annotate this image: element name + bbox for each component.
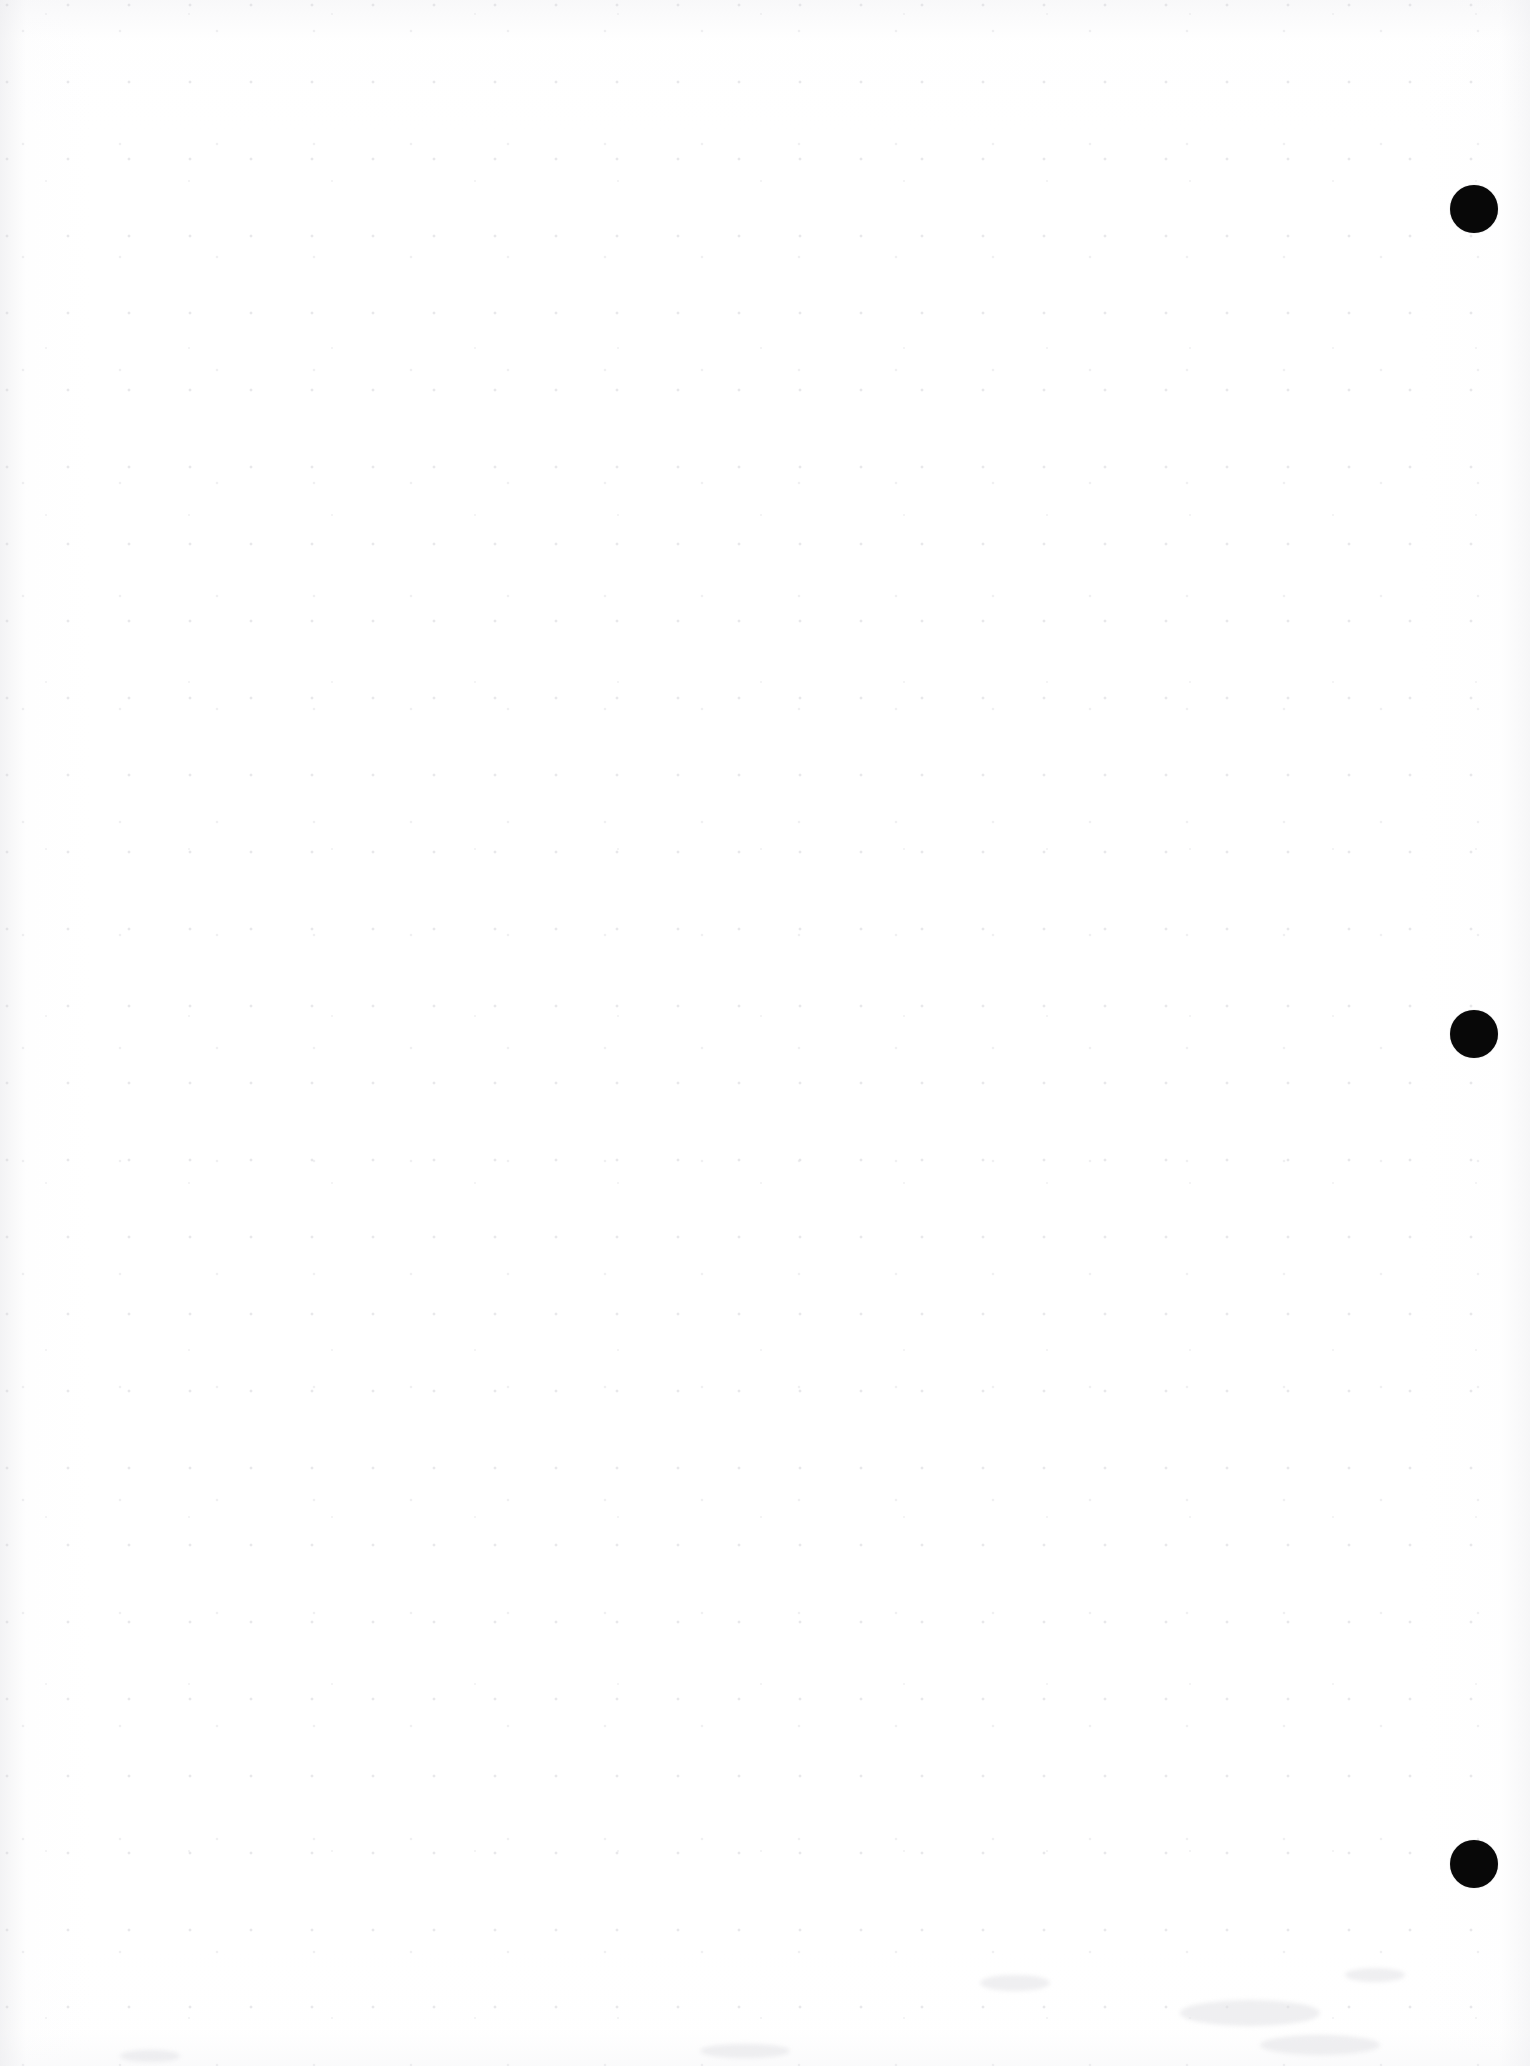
scan-smudge	[700, 2044, 790, 2058]
scanned-page	[0, 0, 1530, 2066]
scan-smudge	[1260, 2035, 1380, 2055]
page-scan-tone	[0, 0, 1530, 2066]
page-scan-speckle	[0, 0, 1530, 2066]
scan-smudge	[120, 2050, 180, 2062]
registration-dot-middle	[1450, 1010, 1498, 1058]
registration-dot-bottom	[1450, 1840, 1498, 1888]
scan-smudge	[1180, 2000, 1320, 2026]
scan-smudge	[1345, 1968, 1405, 1982]
registration-dot-top	[1450, 185, 1498, 233]
scan-smudge	[980, 1975, 1050, 1991]
